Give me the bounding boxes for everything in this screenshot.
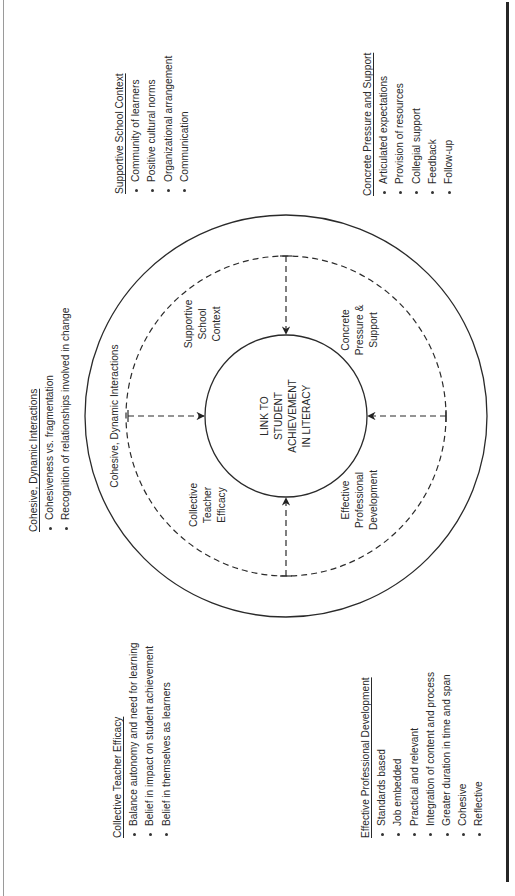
quadrant-label-concrete-pressure-support: Concrete Pressure & Support — [340, 305, 379, 356]
quadrant-label-collective-teacher-efficacy: Collective Teacher Efficacy — [188, 483, 227, 527]
concentric-circle-diagram: LINK TO STUDENT ACHIEVEMENT IN LITERACY … — [0, 0, 515, 896]
svg-text:Efficacy: Efficacy — [216, 486, 227, 522]
center-label-line: IN LITERACY — [301, 384, 312, 447]
quadrant-label-supportive-school-context: Supportive School Context — [183, 299, 222, 348]
svg-text:Support: Support — [368, 312, 379, 348]
ring-label: Cohesive, Dynamic Interactions — [109, 344, 120, 487]
center-label-line: ACHIEVEMENT — [287, 379, 298, 453]
svg-text:Pressure &: Pressure & — [354, 305, 365, 356]
svg-text:Professional: Professional — [354, 472, 365, 528]
svg-text:Effective: Effective — [340, 480, 351, 519]
svg-text:Collective: Collective — [188, 483, 199, 527]
svg-text:Supportive: Supportive — [183, 299, 194, 348]
ring-label-text: Cohesive, Dynamic Interactions — [109, 344, 120, 487]
center-label-line: LINK TO — [259, 396, 270, 435]
center-label: LINK TO STUDENT ACHIEVEMENT IN LITERACY — [259, 379, 312, 453]
svg-text:School: School — [197, 308, 208, 339]
svg-text:Concrete: Concrete — [340, 309, 351, 351]
inner-circle — [205, 335, 367, 497]
quadrant-label-effective-professional-development: Effective Professional Development — [340, 470, 379, 530]
outer-circle — [85, 215, 487, 617]
svg-text:Context: Context — [211, 306, 222, 341]
svg-text:Teacher: Teacher — [202, 486, 213, 523]
svg-text:Development: Development — [368, 470, 379, 530]
center-label-line: STUDENT — [273, 392, 284, 440]
